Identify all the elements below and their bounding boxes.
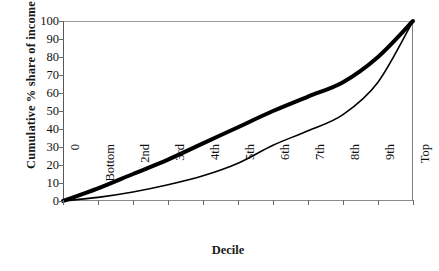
y-axis-tick-mark	[59, 93, 64, 94]
x-axis-tick-label: 3rd	[174, 144, 187, 208]
y-axis-tick-label: 90	[26, 33, 59, 46]
y-axis-tick-mark	[59, 57, 64, 58]
y-axis-tick-label: 50	[26, 105, 59, 118]
y-axis-tick-label: 30	[26, 141, 59, 154]
x-axis-tick-label: 0	[69, 144, 82, 208]
y-axis-tick-label: 80	[26, 51, 59, 64]
x-axis-tick-mark	[133, 200, 134, 205]
x-axis-tick-label: Top	[419, 144, 432, 208]
lorenz-curve-chart: Cumulative % share of income 01020304050…	[0, 0, 439, 271]
y-axis-tick-mark	[59, 111, 64, 112]
x-axis-title: Decile	[168, 243, 288, 258]
x-axis-tick-label: 4th	[209, 144, 222, 208]
x-axis-tick-mark	[203, 200, 204, 205]
x-axis-tick-label: 2nd	[139, 144, 152, 208]
x-axis-tick-label: 7th	[314, 144, 327, 208]
y-axis-tick-mark	[59, 39, 64, 40]
y-axis-tick-label: 20	[26, 159, 59, 172]
x-axis-tick-mark	[98, 200, 99, 205]
x-axis-tick-mark	[413, 200, 414, 205]
y-axis-tick-label: 0	[26, 195, 59, 208]
y-axis-tick-label: 70	[26, 69, 59, 82]
y-axis-tick-mark	[59, 21, 64, 22]
x-axis-tick-mark	[63, 200, 64, 205]
x-axis-tick-mark	[343, 200, 344, 205]
y-axis-tick-mark	[59, 147, 64, 148]
x-axis-tick-label: 6th	[279, 144, 292, 208]
x-axis-tick-label: Bottom	[104, 144, 117, 208]
x-axis-tick-mark	[238, 200, 239, 205]
y-axis-tick-label: 60	[26, 87, 59, 100]
y-axis-tick-mark	[59, 183, 64, 184]
y-axis-tick-label: 10	[26, 177, 59, 190]
x-axis-tick-mark	[273, 200, 274, 205]
x-axis-tick-label: 8th	[349, 144, 362, 208]
y-axis-tick-label: 40	[26, 123, 59, 136]
x-axis-tick-mark	[308, 200, 309, 205]
y-axis-tick-mark	[59, 75, 64, 76]
y-axis-tick-mark	[59, 129, 64, 130]
x-axis-tick-mark	[168, 200, 169, 205]
x-axis-tick-label: 5th	[244, 144, 257, 208]
y-axis-tick-label: 100	[26, 15, 59, 28]
y-axis-tick-mark	[59, 165, 64, 166]
x-axis-tick-label: 9th	[384, 144, 397, 208]
x-axis-tick-mark	[378, 200, 379, 205]
